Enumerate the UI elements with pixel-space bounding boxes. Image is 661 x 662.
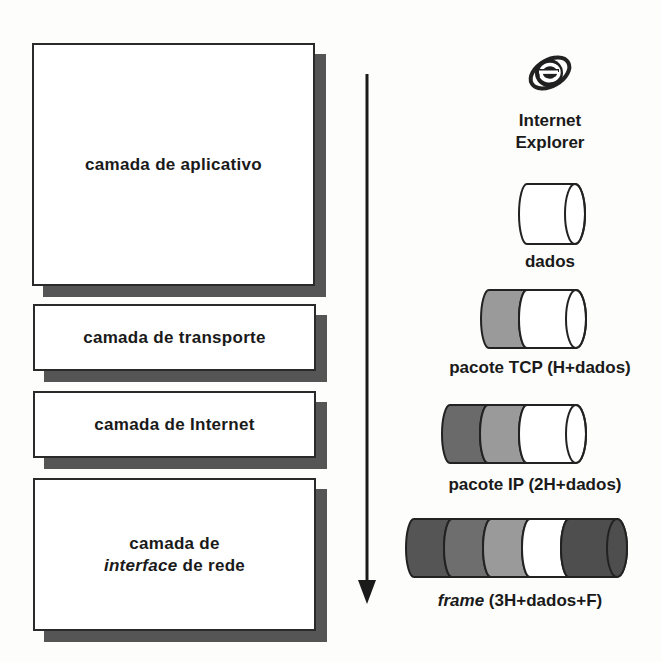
layer-transport-label: camada de transporte: [83, 327, 266, 349]
layer-network-interface-line2: interface de rede: [104, 555, 245, 577]
packet-data-cylinder: [518, 180, 588, 248]
down-arrow-icon: [357, 74, 377, 614]
layer-application-label: camada de aplicativo: [85, 154, 262, 176]
layer-network-interface: camada de interface de rede: [33, 478, 316, 631]
packet-ip-label: pacote IP (2H+dados): [415, 474, 655, 496]
packet-ip-cylinder: [441, 402, 591, 468]
layer-transport: camada de transporte: [33, 304, 316, 371]
app-label-line1: Internet: [490, 110, 610, 132]
packet-tcp-label: pacote TCP (H+dados): [420, 357, 660, 379]
app-label-line2: Explorer: [490, 132, 610, 154]
packet-frame-cylinder: [405, 516, 635, 582]
layer-internet-label: camada de Internet: [94, 414, 254, 436]
packet-data-label: dados: [490, 251, 610, 273]
layer-application: camada de aplicativo: [32, 43, 315, 286]
layer-internet: camada de Internet: [33, 391, 316, 458]
layer-network-interface-line1: camada de: [129, 533, 220, 555]
packet-frame-label: frame (3H+dados+F): [400, 590, 640, 612]
app-label: Internet Explorer: [490, 110, 610, 154]
internet-explorer-icon: [526, 50, 576, 94]
packet-tcp-cylinder: [480, 287, 590, 353]
